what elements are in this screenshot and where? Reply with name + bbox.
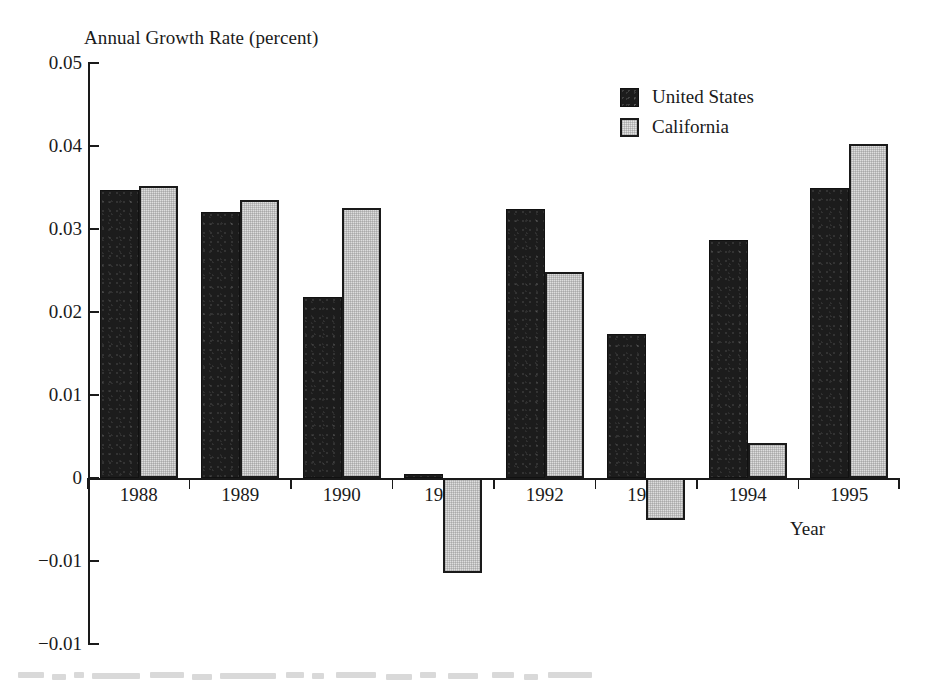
bar-california-1988: [139, 186, 178, 478]
x-tick-label-1988: 1988: [120, 484, 158, 506]
chart-legend: United States California: [620, 82, 754, 142]
x-tick-mark: [696, 478, 698, 489]
y-axis-title: Annual Growth Rate (percent): [84, 27, 318, 49]
y-tick-label: 0.03: [4, 218, 82, 240]
y-tick-mark: [88, 145, 99, 147]
x-tick-mark: [493, 478, 495, 489]
y-axis-line: [88, 63, 90, 644]
legend-swatch-united-states-icon: [620, 88, 639, 107]
bar-united-states-1992: [506, 209, 545, 478]
y-axis-cap-tick: [88, 643, 99, 645]
x-tick-label-1990: 1990: [323, 484, 361, 506]
x-tick-label-1992: 1992: [526, 484, 564, 506]
x-tick-label-1995: 1995: [830, 484, 868, 506]
x-tick-label-1989: 1989: [221, 484, 259, 506]
x-tick-label-1994: 1994: [729, 484, 767, 506]
y-tick-mark: [88, 560, 99, 562]
y-tick-label: 0: [4, 467, 82, 489]
bar-chart-figure: Annual Growth Rate (percent) 0.050.040.0…: [0, 0, 931, 684]
y-tick-label: 0.04: [4, 135, 82, 157]
legend-label-united-states: United States: [652, 86, 754, 108]
bar-united-states-1993: [607, 334, 646, 478]
x-tick-mark: [392, 478, 394, 489]
bar-california-1994: [748, 443, 787, 478]
y-tick-label: 0.05: [4, 52, 82, 74]
x-tick-mark: [189, 478, 191, 489]
y-tick-label: −0.01: [4, 550, 82, 572]
bar-california-1993: [646, 478, 685, 520]
y-tick-label: 0.01: [4, 384, 82, 406]
y-tick-label: 0.02: [4, 301, 82, 323]
bar-california-1995: [849, 144, 888, 478]
y-tick-mark: [88, 311, 99, 313]
y-axis-cap-tick: [88, 62, 99, 64]
legend-label-california: California: [652, 116, 729, 138]
x-axis-title: Year: [790, 518, 825, 540]
legend-item-california: California: [620, 112, 754, 142]
bar-united-states-1991: [404, 474, 443, 478]
bar-united-states-1989: [201, 212, 240, 478]
page-caption-fragment: [0, 672, 931, 684]
x-tick-mark: [898, 478, 900, 489]
y-tick-mark: [88, 228, 99, 230]
y-tick-label: −0.01: [4, 633, 82, 655]
bar-california-1991: [443, 478, 482, 573]
bar-california-1989: [240, 200, 279, 478]
y-tick-mark: [88, 477, 99, 479]
legend-swatch-california-icon: [620, 118, 639, 137]
y-tick-mark: [88, 394, 99, 396]
x-tick-mark: [798, 478, 800, 489]
x-tick-mark: [290, 478, 292, 489]
legend-item-united-states: United States: [620, 82, 754, 112]
bar-united-states-1995: [810, 188, 849, 479]
bar-california-1992: [545, 272, 584, 478]
x-tick-mark: [595, 478, 597, 489]
bar-united-states-1990: [303, 297, 342, 478]
bar-united-states-1994: [709, 240, 748, 478]
bar-california-1990: [342, 208, 381, 478]
bar-united-states-1988: [100, 190, 139, 478]
x-tick-mark: [87, 478, 89, 489]
